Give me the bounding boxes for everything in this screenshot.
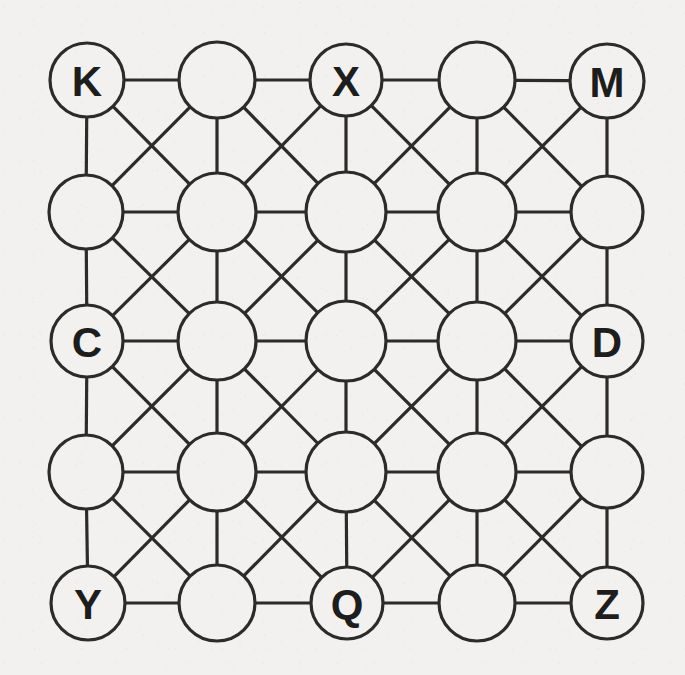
node-grid-graph: KXMCDYQZ bbox=[0, 0, 685, 675]
graph-node-empty-4-1[interactable] bbox=[179, 565, 255, 641]
graph-node-empty-3-2[interactable] bbox=[306, 432, 386, 512]
graph-node-empty-0-1[interactable] bbox=[179, 42, 255, 118]
node-circle bbox=[178, 302, 256, 380]
graph-node-empty-4-3[interactable] bbox=[439, 565, 515, 641]
node-label: M bbox=[590, 59, 625, 106]
graph-node-M[interactable]: M bbox=[570, 44, 644, 118]
graph-node-D[interactable]: D bbox=[571, 305, 643, 377]
node-circle bbox=[438, 433, 516, 511]
node-label: X bbox=[332, 58, 360, 105]
graph-node-empty-2-1[interactable] bbox=[178, 302, 256, 380]
node-label: Q bbox=[331, 581, 364, 628]
node-circle bbox=[306, 172, 386, 252]
node-label: Z bbox=[594, 581, 620, 628]
diagram-canvas: KXMCDYQZ bbox=[0, 0, 685, 675]
node-circle bbox=[178, 433, 256, 511]
graph-node-X[interactable]: X bbox=[310, 44, 382, 116]
node-circle bbox=[49, 175, 123, 249]
node-circle bbox=[179, 42, 255, 118]
node-circle bbox=[49, 435, 123, 509]
node-circle bbox=[438, 173, 516, 251]
node-circle bbox=[306, 432, 386, 512]
node-label: C bbox=[72, 319, 102, 366]
graph-node-empty-3-1[interactable] bbox=[178, 433, 256, 511]
node-circle bbox=[439, 565, 515, 641]
graph-node-C[interactable]: C bbox=[51, 305, 123, 377]
graph-node-empty-1-1[interactable] bbox=[178, 173, 256, 251]
graph-node-empty-1-2[interactable] bbox=[306, 172, 386, 252]
node-circle bbox=[179, 565, 255, 641]
graph-node-empty-0-3[interactable] bbox=[439, 42, 515, 118]
node-label: Y bbox=[74, 581, 102, 628]
graph-node-empty-3-3[interactable] bbox=[438, 433, 516, 511]
graph-node-empty-1-4[interactable] bbox=[571, 176, 643, 248]
node-circle bbox=[571, 176, 643, 248]
graph-node-empty-2-3[interactable] bbox=[438, 302, 516, 380]
graph-node-empty-1-3[interactable] bbox=[438, 173, 516, 251]
node-label: K bbox=[72, 58, 102, 105]
graph-node-empty-3-4[interactable] bbox=[571, 436, 643, 508]
node-circle bbox=[439, 42, 515, 118]
graph-edge-vertical bbox=[87, 509, 88, 566]
graph-edge-diagonal-down-right bbox=[244, 500, 321, 578]
graph-node-K[interactable]: K bbox=[50, 43, 124, 117]
graph-node-empty-1-0[interactable] bbox=[49, 175, 123, 249]
node-circle bbox=[306, 301, 386, 381]
graph-node-Z[interactable]: Z bbox=[571, 567, 643, 639]
node-label: D bbox=[592, 319, 622, 366]
graph-node-empty-2-2[interactable] bbox=[306, 301, 386, 381]
graph-node-Q[interactable]: Q bbox=[311, 567, 383, 639]
node-circle bbox=[571, 436, 643, 508]
graph-node-Y[interactable]: Y bbox=[51, 566, 125, 640]
graph-node-empty-3-0[interactable] bbox=[49, 435, 123, 509]
node-circle bbox=[438, 302, 516, 380]
node-circle bbox=[178, 173, 256, 251]
